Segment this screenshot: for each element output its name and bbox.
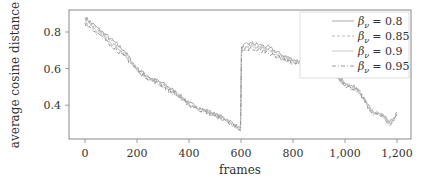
legend-label: βν= 0.9 [357, 45, 402, 60]
x-tick-label: 1,000 [329, 147, 361, 160]
x-axis-label: frames [219, 163, 261, 177]
y-axis: 0.40.60.8 [44, 26, 70, 112]
x-tick-label: 800 [283, 147, 304, 160]
legend: βν= 0.8βν= 0.85βν= 0.9βν= 0.95 [300, 12, 409, 78]
y-tick-label: 0.8 [44, 26, 62, 39]
x-tick-label: 600 [231, 147, 252, 160]
y-axis-label: average cosine distance [8, 2, 22, 148]
x-tick-label: 400 [179, 147, 200, 160]
x-tick-label: 1,200 [381, 147, 413, 160]
x-tick-label: 0 [82, 147, 89, 160]
y-tick-label: 0.6 [44, 63, 62, 76]
x-axis: 02004006008001,0001,200 [82, 139, 413, 160]
chart-canvas: 02004006008001,0001,200 0.40.60.8 frames… [0, 0, 431, 182]
line-chart: 02004006008001,0001,200 0.40.60.8 frames… [0, 0, 431, 182]
y-tick-label: 0.4 [44, 99, 62, 112]
legend-label: βν= 0.8 [357, 15, 402, 30]
x-tick-label: 200 [127, 147, 148, 160]
